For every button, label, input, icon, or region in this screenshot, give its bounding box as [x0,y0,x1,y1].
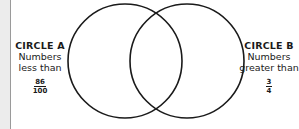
circle-a-numerator: 86 [34,78,46,87]
circle-b-numerator: 3 [266,78,273,87]
circle-b [130,4,244,118]
circle-a-fraction: 86 100 [33,78,48,95]
circle-b-fraction: 3 4 [266,78,273,95]
circle-a-desc-line2: less than [12,62,68,73]
circle-b-desc-line2: greater than [238,62,299,73]
circle-b-label: CIRCLE B Numbers greater than 3 4 [238,40,299,95]
circle-a-label: CIRCLE A Numbers less than 86 100 [12,40,68,95]
circle-a [68,4,182,118]
circle-b-denominator: 4 [267,87,272,95]
circle-b-title: CIRCLE B [238,40,299,51]
circle-b-desc-line1: Numbers [238,51,299,62]
circle-a-title: CIRCLE A [12,40,68,51]
circle-a-desc-line1: Numbers [12,51,68,62]
circle-a-denominator: 100 [33,87,48,95]
